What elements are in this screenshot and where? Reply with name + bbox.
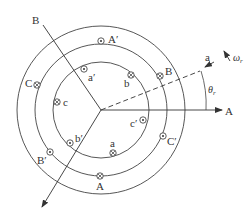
svg-text:b′: b′ xyxy=(75,132,83,144)
conductor-c-prime: c′ xyxy=(130,117,146,129)
conductor-A: A xyxy=(96,173,104,192)
label-theta: θr xyxy=(208,84,216,97)
svg-text:C′: C′ xyxy=(167,135,177,147)
omega-arrow xyxy=(224,51,230,61)
svg-text:B: B xyxy=(165,65,172,77)
svg-text:a: a xyxy=(110,137,115,149)
label-axis-B: B xyxy=(32,14,39,26)
label-axis-A: A xyxy=(225,105,233,117)
svg-text:A′: A′ xyxy=(108,33,118,45)
axis-C xyxy=(42,110,101,207)
svg-text:C: C xyxy=(25,77,32,89)
conductor-C-prime: C′ xyxy=(160,133,177,147)
conductor-a-prime: a′ xyxy=(81,66,95,83)
axis-B xyxy=(43,25,101,110)
conductor-a: a xyxy=(110,137,116,156)
label-axis-a: a xyxy=(205,51,210,63)
label-omega: ωr xyxy=(233,52,243,65)
conductor-B-prime: B′ xyxy=(37,149,53,166)
conductor-C: C xyxy=(25,77,40,89)
theta-arc xyxy=(201,71,206,110)
svg-text:c′: c′ xyxy=(130,117,137,129)
svg-text:a′: a′ xyxy=(88,71,95,83)
svg-text:b: b xyxy=(124,77,130,89)
conductor-b: b xyxy=(124,72,134,89)
machine-winding-diagram: B A a ωr θr A′ a′ b B C c c′ C′ b′ xyxy=(0,0,251,220)
svg-text:A: A xyxy=(96,180,104,192)
conductor-B: B xyxy=(157,65,173,79)
svg-text:c: c xyxy=(63,96,68,108)
svg-text:B′: B′ xyxy=(37,154,47,166)
conductor-A-prime: A′ xyxy=(98,33,119,45)
conductor-c: c xyxy=(54,96,68,108)
